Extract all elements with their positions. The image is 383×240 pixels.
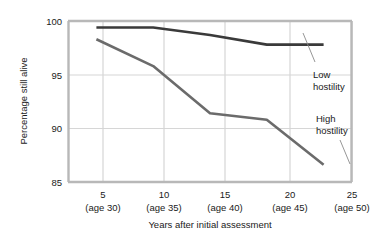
y-tick-label-95: 95 (51, 70, 62, 81)
x-tick-label-25: 25 (347, 189, 358, 200)
x-sublabel-age-50: (age 50) (334, 202, 369, 213)
x-sublabel-age-40: (age 40) (207, 202, 242, 213)
y-tick-label-85: 85 (51, 177, 62, 188)
x-sublabel-age-45: (age 45) (272, 202, 307, 213)
low-hostility-label-line2: hostility (313, 81, 345, 92)
low-hostility-label-line1: Low (313, 69, 331, 80)
y-tick-label-90: 90 (51, 123, 62, 134)
chart-figure: 100 95 90 85 Percentage still alive 5 10… (0, 0, 383, 240)
x-sublabel-age-30: (age 30) (85, 202, 120, 213)
high-hostility-label-line2: hostility (316, 125, 348, 136)
x-tick-label-20: 20 (285, 189, 296, 200)
x-axis-title: Years after initial assessment (148, 219, 272, 230)
x-tick-label-10: 10 (159, 189, 170, 200)
y-axis-title: Percentage still alive (18, 57, 29, 144)
line-chart: 100 95 90 85 Percentage still alive 5 10… (0, 0, 383, 240)
x-sublabel-age-35: (age 35) (146, 202, 181, 213)
x-tick-label-5: 5 (100, 189, 105, 200)
high-hostility-label-line1: High (316, 113, 336, 124)
x-tick-label-15: 15 (220, 189, 231, 200)
y-tick-label-100: 100 (46, 16, 62, 27)
